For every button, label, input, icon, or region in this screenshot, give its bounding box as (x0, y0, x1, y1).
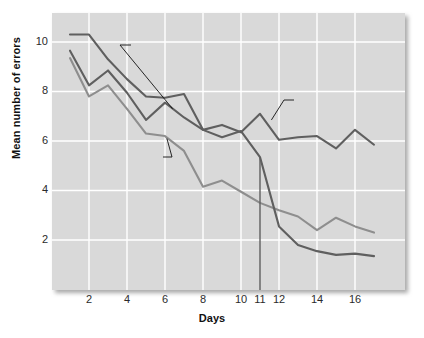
chart-figure: Mean number of errors Days 10 8 6 4 2 2 … (0, 0, 424, 338)
plot-canvas (0, 0, 424, 338)
